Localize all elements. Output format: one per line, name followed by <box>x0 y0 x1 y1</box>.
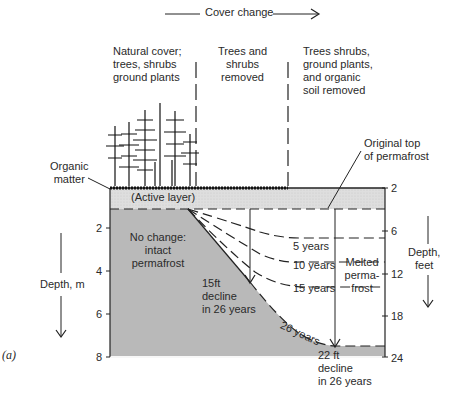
right-tick-12: 12 <box>391 268 403 281</box>
right-tick-2: 2 <box>391 182 397 195</box>
trees-icon <box>106 103 199 186</box>
left-axis-title: Depth, m <box>40 278 85 291</box>
right-tick-6: 6 <box>391 225 397 238</box>
right-tick-18: 18 <box>391 310 403 323</box>
left-tick-8: 8 <box>96 351 102 364</box>
no-change-label: No change: intact permafrost <box>128 231 188 270</box>
right-axis-title: Depth, feet <box>408 246 440 272</box>
left-tick-2: 2 <box>96 222 102 235</box>
years-15-label: 15 years <box>293 282 335 295</box>
years-10-label: 10 years <box>293 259 335 272</box>
years-5-label: 5 years <box>293 240 329 253</box>
right-tick-24: 24 <box>391 352 403 365</box>
decline-22-label: 22 ft decline in 26 years <box>318 349 372 388</box>
column-all-removed: Trees shrubs, ground plants, and organic… <box>303 45 373 97</box>
panel-label: (a) <box>2 349 16 362</box>
active-layer-label: (Active layer) <box>131 191 195 204</box>
column-natural-cover: Natural cover; trees, shrubs ground plan… <box>113 45 181 84</box>
cover-change-label: Cover change <box>205 6 274 19</box>
left-tick-4: 4 <box>96 265 102 278</box>
column-trees-removed: Trees and shrubs removed <box>210 45 275 84</box>
original-top-label: Original top of permafrost <box>364 137 429 163</box>
melted-label: Melted perma- frost <box>342 256 382 295</box>
decline-15-label: 15ft decline in 26 years <box>202 277 256 316</box>
organic-matter-label: Organic matter <box>50 160 89 186</box>
left-tick-6: 6 <box>96 308 102 321</box>
